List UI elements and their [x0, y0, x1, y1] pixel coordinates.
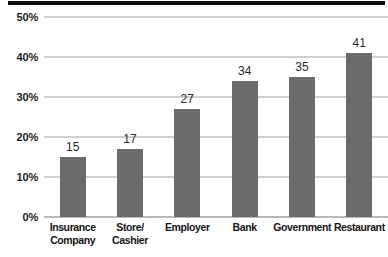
bar-group: 27 [159, 17, 216, 217]
bar [232, 81, 258, 217]
x-category-label: Employer [159, 221, 216, 234]
y-tick-label: 20% [0, 131, 38, 143]
bar-group: 15 [44, 17, 101, 217]
y-tick-label: 40% [0, 51, 38, 63]
bar [174, 109, 200, 217]
bar-value-label: 27 [181, 92, 194, 106]
bar-value-label: 17 [123, 132, 136, 146]
bar-chart: 151727343541 0%10%20%30%40%50% Insurance… [0, 0, 388, 257]
y-tick-label: 0% [0, 211, 38, 223]
y-tick-label: 30% [0, 91, 38, 103]
bar [346, 53, 372, 217]
bar [117, 149, 143, 217]
bar-value-label: 41 [353, 36, 366, 50]
bar-group: 34 [216, 17, 273, 217]
bar-value-label: 15 [66, 140, 79, 154]
x-category-label: Store/ Cashier [101, 221, 158, 246]
bar-group: 41 [331, 17, 388, 217]
bar-group: 17 [101, 17, 158, 217]
y-tick-label: 10% [0, 171, 38, 183]
bar-group: 35 [273, 17, 330, 217]
x-category-label: Government [273, 221, 330, 234]
plot-area: 151727343541 [44, 17, 388, 217]
bar-value-label: 35 [295, 60, 308, 74]
x-category-label: Bank [216, 221, 273, 234]
x-axis-category-labels: Insurance CompanyStore/ CashierEmployerB… [44, 221, 388, 257]
bar [289, 77, 315, 217]
y-tick-label: 50% [0, 11, 38, 23]
x-category-label: Insurance Company [44, 221, 101, 246]
bar [60, 157, 86, 217]
top-black-band [8, 1, 385, 5]
bars-layer: 151727343541 [44, 17, 388, 217]
x-category-label: Restaurant [331, 221, 388, 234]
bar-value-label: 34 [238, 64, 251, 78]
